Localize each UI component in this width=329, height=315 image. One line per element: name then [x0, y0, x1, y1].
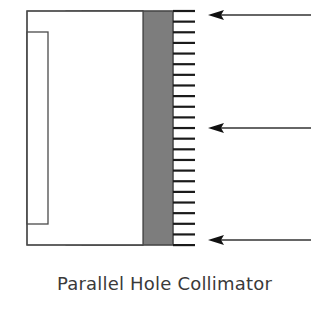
- arrow-icon: [208, 123, 311, 133]
- arrow-icon: [208, 10, 311, 20]
- collimator-teeth: [173, 11, 195, 245]
- incoming-gamma-arrows: [208, 10, 311, 245]
- arrow-icon: [208, 235, 311, 245]
- collimator-diagram: [0, 0, 329, 270]
- housing-inner-box: [27, 32, 48, 224]
- detector-block: [143, 11, 173, 245]
- figure-caption: Parallel Hole Collimator: [0, 273, 329, 294]
